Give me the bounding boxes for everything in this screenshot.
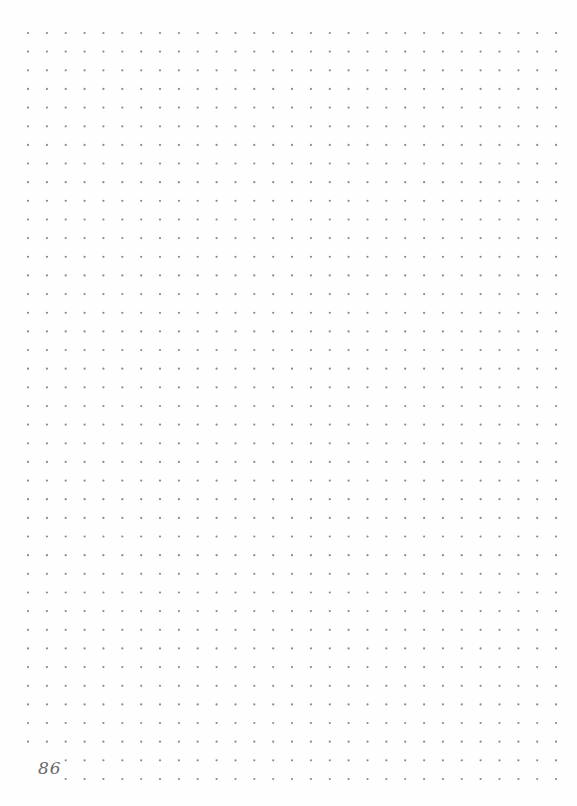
dot-grid (0, 0, 577, 806)
page-number: 86 (38, 758, 62, 778)
notebook-page: 86 (0, 0, 577, 806)
